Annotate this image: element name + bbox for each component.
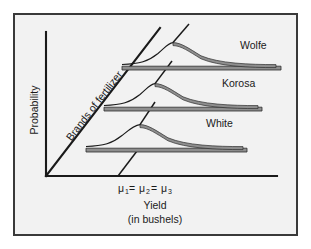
mu-2: μ <box>139 182 145 194</box>
series-label-white: White <box>206 117 233 129</box>
mu-3-subscript: 3 <box>168 188 172 195</box>
series-label-wolfe: Wolfe <box>240 39 267 51</box>
x-axis-label-main: Yield <box>144 199 167 211</box>
x-axis-label-sub: (in bushels) <box>128 213 182 225</box>
mu-2-subscript: 2 <box>146 188 150 195</box>
y-axis-label: Probability <box>28 85 40 135</box>
mu-equals-1: = <box>129 182 135 194</box>
mu-1: μ <box>118 182 124 194</box>
mu-3: μ <box>161 182 167 194</box>
series-label-korosa: Korosa <box>222 77 255 89</box>
figure-container: White Korosa Wolfe Probability Brands of… <box>0 0 311 249</box>
mu-equals-2: = <box>151 182 157 194</box>
